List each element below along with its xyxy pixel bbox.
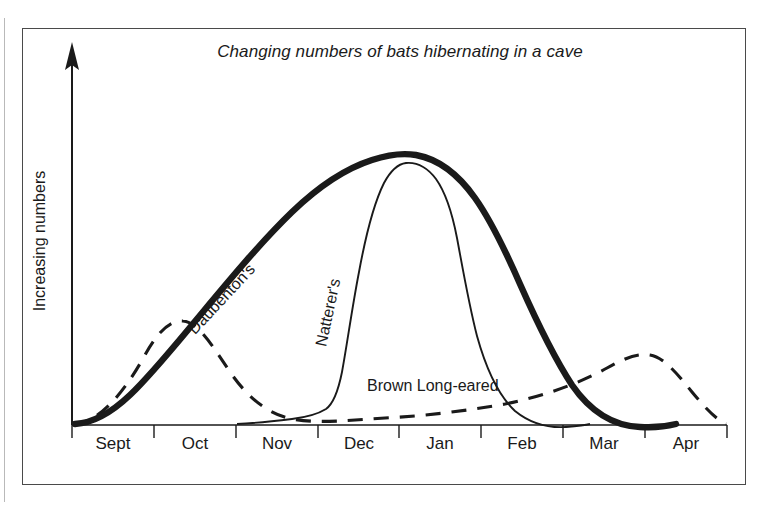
x-tick-label-apr: Apr (645, 434, 727, 454)
x-tick-label-dec: Dec (318, 434, 400, 454)
figure-page: Changing numbers of bats hibernating in … (0, 0, 764, 511)
y-axis-label: Increasing numbers (31, 141, 49, 341)
x-tick-label-oct: Oct (154, 434, 236, 454)
x-tick-label-sept: Sept (72, 434, 154, 454)
figure-frame (22, 28, 746, 485)
x-tick-label-mar: Mar (563, 434, 645, 454)
page-title: Changing numbers of bats hibernating in … (175, 42, 625, 62)
x-tick-label-jan: Jan (399, 434, 481, 454)
page-edge-rule (4, 18, 5, 502)
series-label-brown-long-eared: Brown Long-eared (367, 377, 499, 395)
x-tick-label-feb: Feb (481, 434, 563, 454)
x-tick-label-nov: Nov (236, 434, 318, 454)
